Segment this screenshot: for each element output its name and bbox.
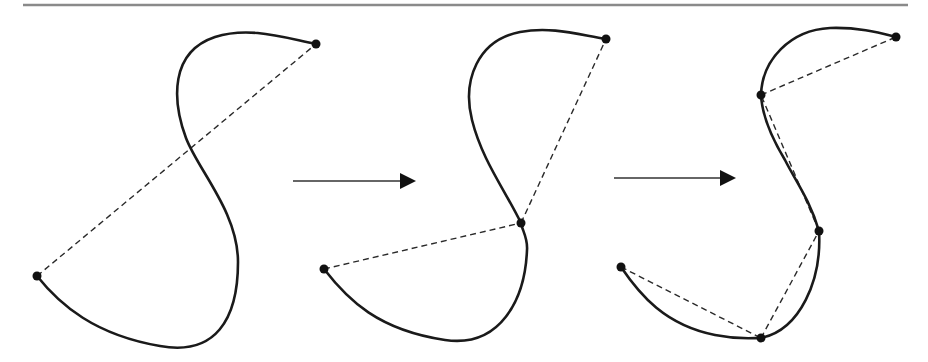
stage-3 (617, 28, 901, 343)
stage-2 (320, 30, 611, 341)
arrows-group (293, 170, 736, 189)
stage-1 (33, 33, 321, 348)
arrow-2 (614, 170, 736, 186)
vertex-dot (602, 35, 611, 44)
vertex-dot (757, 91, 766, 100)
vertex-dot (312, 40, 321, 49)
curve-path (37, 33, 316, 348)
dashed-chord (521, 39, 606, 223)
arrow-right-icon (400, 173, 416, 189)
vertex-dot (320, 265, 329, 274)
vertex-dot (33, 272, 42, 281)
vertex-dot (757, 334, 766, 343)
stages-group (33, 28, 901, 348)
simplification-diagram (0, 0, 928, 362)
dashed-chord (761, 37, 896, 95)
dashed-chord (324, 223, 521, 269)
curve-path (621, 28, 896, 339)
vertex-dot (815, 227, 824, 236)
dashed-chord (37, 44, 316, 276)
vertex-dot (892, 33, 901, 42)
vertex-dot (517, 219, 526, 228)
arrow-right-icon (720, 170, 736, 186)
arrow-1 (293, 173, 416, 189)
vertex-dot (617, 263, 626, 272)
curve-path (324, 30, 606, 341)
